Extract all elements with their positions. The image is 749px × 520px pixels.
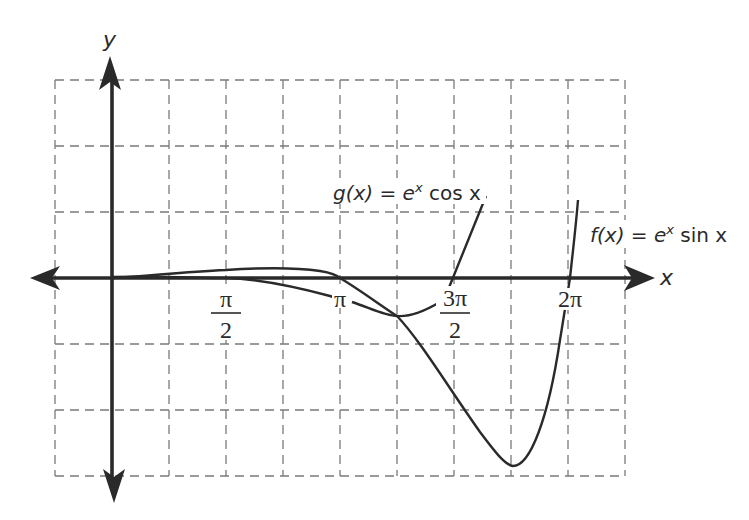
svg-text:f(x) = ex sin x: f(x) = ex sin x	[590, 222, 727, 247]
tick-label-pi: π	[332, 286, 350, 312]
svg-text:π: π	[220, 286, 232, 312]
svg-text:2π: 2π	[558, 286, 582, 312]
svg-text:g(x) = ex cos x: g(x) = ex cos x	[333, 180, 481, 205]
label-g: g(x) = ex cos x	[330, 178, 486, 205]
y-axis-label: y	[102, 27, 117, 52]
tick-label-3pi-over-2: 3π 2	[436, 285, 474, 343]
svg-text:π: π	[334, 286, 346, 312]
tick-label-2pi: 2π	[552, 286, 588, 312]
x-axis-label: x	[659, 265, 674, 290]
label-f: f(x) = ex sin x	[588, 220, 748, 248]
svg-text:3π: 3π	[443, 285, 467, 311]
svg-text:2: 2	[449, 317, 461, 343]
curve-g	[112, 196, 486, 316]
curve-f	[112, 200, 578, 466]
y-axis-up-arrow-icon	[99, 56, 121, 90]
y-axis-down-arrow-icon	[103, 469, 125, 503]
function-graph: y x π 2 π 3π 2 2π g(x) = ex cos x f(x) =…	[0, 0, 749, 520]
svg-text:2: 2	[220, 317, 232, 343]
tick-label-pi-over-2: π 2	[210, 286, 242, 343]
